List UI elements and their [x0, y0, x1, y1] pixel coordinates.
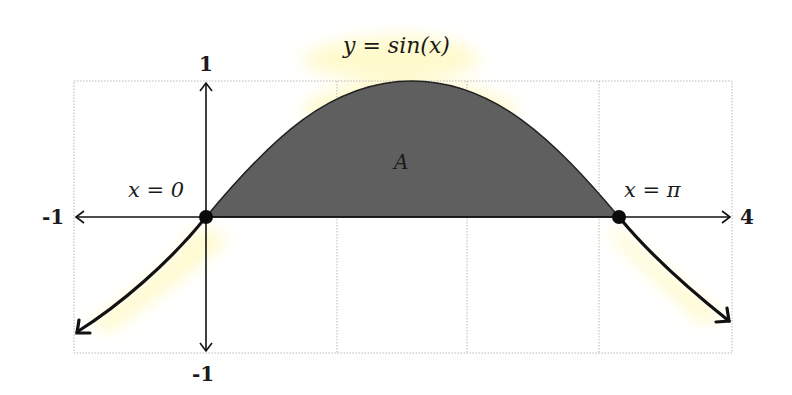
shaded-area-a	[206, 81, 619, 217]
y-min-tick-label: -1	[192, 362, 214, 386]
point-label-x-pi: x = π	[624, 178, 681, 202]
point-x-pi	[612, 210, 626, 224]
sine-curve-right-tail	[619, 217, 729, 322]
x-min-tick-label: -1	[42, 205, 64, 229]
area-label: A	[394, 150, 408, 174]
point-label-x-0: x = 0	[128, 178, 184, 202]
function-title: y = sin(x)	[343, 33, 450, 58]
sine-curve-left-tail	[77, 217, 206, 333]
point-x-0	[199, 210, 213, 224]
x-max-tick-label: 4	[740, 205, 754, 229]
y-max-tick-label: 1	[199, 52, 213, 76]
